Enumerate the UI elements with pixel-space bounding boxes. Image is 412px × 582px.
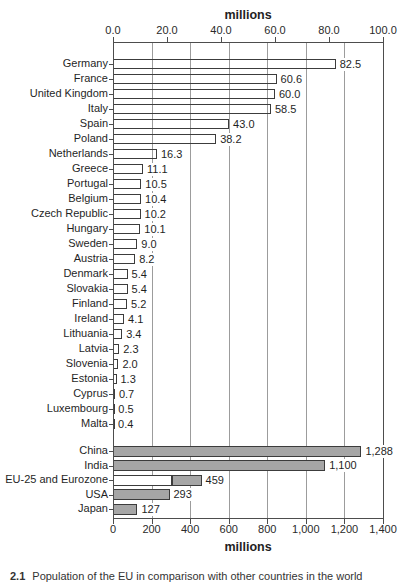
value-label: 43.0 <box>232 118 255 131</box>
value-label: 0.5 <box>117 403 134 416</box>
bar <box>113 489 170 500</box>
category-tick <box>109 79 113 80</box>
category-tick <box>109 124 113 125</box>
value-label: 60.6 <box>280 73 303 86</box>
bottom-axis-tick <box>229 519 230 524</box>
value-label: 10.5 <box>144 178 167 191</box>
top-axis-tick <box>329 37 330 42</box>
value-label: 0.7 <box>118 388 135 401</box>
category-tick <box>109 94 113 95</box>
category-tick <box>109 379 113 380</box>
top-axis-tick <box>167 37 168 42</box>
category-label: Japan <box>78 502 108 514</box>
bottom-axis-tick-label: 200 <box>142 523 160 535</box>
top-axis-tick-label: 40.0 <box>210 24 231 36</box>
value-label: 58.5 <box>274 103 297 116</box>
category-tick <box>109 451 113 452</box>
category-label: Spain <box>80 117 108 129</box>
category-tick <box>109 409 113 410</box>
value-label: 5.4 <box>131 268 148 281</box>
category-tick <box>109 229 113 230</box>
bar <box>113 460 325 471</box>
category-tick <box>109 274 113 275</box>
category-label: EU-25 and Eurozone <box>5 473 108 485</box>
value-label: 1,288 <box>364 445 394 458</box>
bar <box>113 239 137 249</box>
category-tick <box>109 319 113 320</box>
top-axis-tick-label: 100.0 <box>369 24 397 36</box>
category-label: USA <box>85 488 108 500</box>
bottom-axis-tick <box>190 519 191 524</box>
top-axis-tick <box>113 37 114 42</box>
category-label: Germany <box>63 57 108 69</box>
category-label: Austria <box>74 252 108 264</box>
value-label: 4.1 <box>127 313 144 326</box>
top-axis-line <box>113 42 384 43</box>
category-label: Luxembourg <box>47 402 108 414</box>
category-tick <box>109 424 113 425</box>
value-label: 10.4 <box>144 193 167 206</box>
category-tick <box>109 480 113 481</box>
category-label: Portugal <box>67 177 108 189</box>
bar <box>113 284 128 294</box>
value-label: 38.2 <box>219 133 242 146</box>
value-label: 11.1 <box>146 163 169 176</box>
bottom-axis-tick-label: 600 <box>220 523 238 535</box>
category-label: Malta <box>81 417 108 429</box>
bar <box>113 446 361 457</box>
bottom-axis-tick <box>306 519 307 524</box>
category-label: Netherlands <box>49 147 108 159</box>
caption-text: Population of the EU in comparison with … <box>32 570 362 582</box>
bottom-axis-tick-label: 1,000 <box>292 523 320 535</box>
value-label: 16.3 <box>160 148 183 161</box>
category-tick <box>109 214 113 215</box>
bottom-axis-tick-label: 1,200 <box>331 523 359 535</box>
category-label: Slovakia <box>66 282 108 294</box>
category-tick <box>109 244 113 245</box>
category-label: Greece <box>72 162 108 174</box>
value-label: 1.3 <box>120 373 137 386</box>
category-tick <box>109 466 113 467</box>
category-label: France <box>74 72 108 84</box>
value-label: 459 <box>205 474 225 487</box>
figure-caption: 2.1Population of the EU in comparison wi… <box>10 570 410 582</box>
bottom-axis-tick-label: 400 <box>181 523 199 535</box>
category-tick <box>109 184 113 185</box>
bar <box>113 254 135 264</box>
category-tick <box>109 394 113 395</box>
bottom-axis-tick <box>267 519 268 524</box>
category-label: Ireland <box>74 312 108 324</box>
bottom-axis-line <box>113 518 384 519</box>
category-tick <box>109 154 113 155</box>
value-label: 1,100 <box>328 459 358 472</box>
value-label: 293 <box>173 488 193 501</box>
category-tick <box>109 364 113 365</box>
value-label: 0.4 <box>117 418 134 431</box>
category-tick <box>109 109 113 110</box>
top-axis-tick-label: 80.0 <box>318 24 339 36</box>
bar <box>113 329 122 339</box>
value-label: 2.0 <box>121 358 138 371</box>
category-label: Italy <box>88 102 108 114</box>
category-tick <box>109 199 113 200</box>
category-tick <box>109 139 113 140</box>
bar <box>113 194 141 204</box>
category-tick <box>109 169 113 170</box>
bar <box>113 104 271 114</box>
bar-segment-gray <box>172 475 201 486</box>
category-label: Sweden <box>68 237 108 249</box>
top-axis-tick <box>383 37 384 42</box>
category-label: China <box>79 444 108 456</box>
category-tick <box>109 349 113 350</box>
category-label: Finland <box>72 297 108 309</box>
category-label: Poland <box>74 132 108 144</box>
category-tick <box>109 64 113 65</box>
value-label: 10.1 <box>143 223 166 236</box>
bottom-axis-tick-label: 0 <box>110 523 116 535</box>
bottom-axis-title: millions <box>113 540 383 554</box>
value-label: 9.0 <box>140 238 157 251</box>
bar <box>113 89 275 99</box>
top-axis-tick <box>221 37 222 42</box>
bar <box>113 504 137 515</box>
